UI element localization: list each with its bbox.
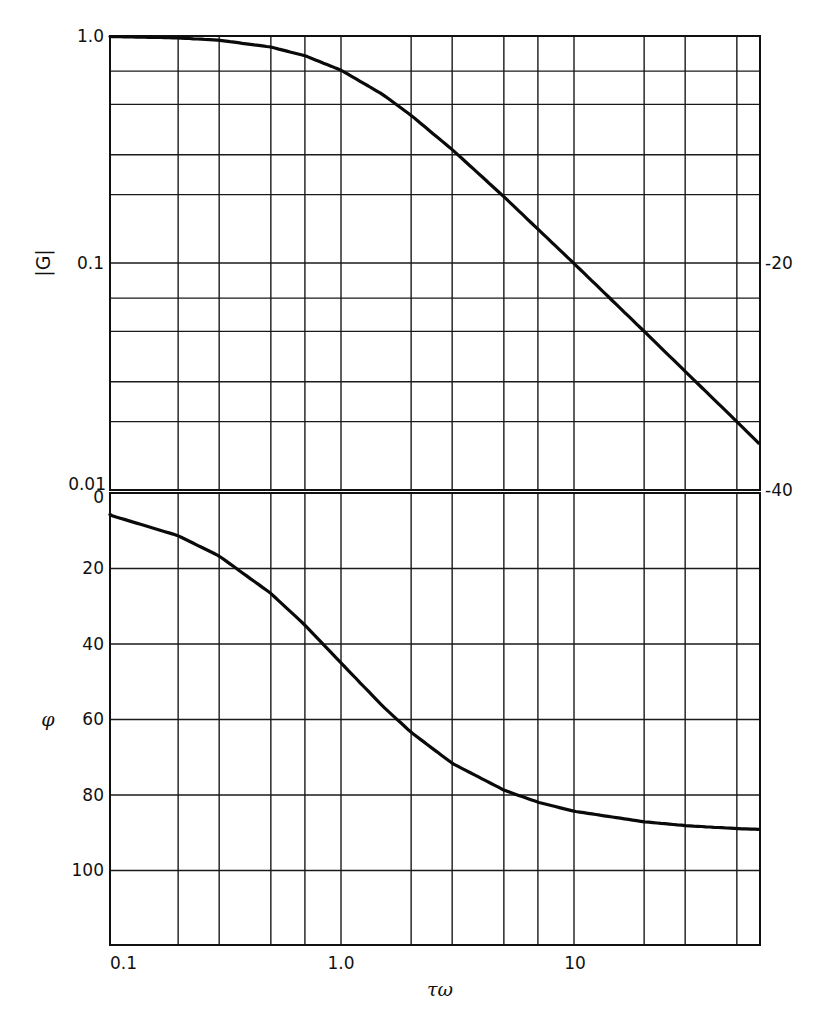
phase-ytick-20: 20: [82, 558, 104, 578]
phase-ytick-80: 80: [82, 785, 104, 805]
xtick-0-1: 0.1: [110, 953, 137, 973]
xtick-10: 10: [564, 953, 586, 973]
magnitude-grid: [110, 36, 760, 490]
mag-ylabel: |G|: [32, 249, 55, 277]
mag-right-tick-minus40: -40: [765, 480, 793, 500]
mag-ytick-0-1: 0.1: [77, 253, 104, 273]
xtick-1-0: 1.0: [327, 953, 354, 973]
xlabel: τω: [427, 978, 453, 1000]
phase-grid: [110, 493, 760, 945]
phase-curve: [110, 515, 759, 830]
phase-ytick-100: 100: [72, 860, 104, 880]
mag-right-tick-minus20: -20: [765, 253, 793, 273]
phase-ytick-40: 40: [82, 634, 104, 654]
phase-ytick-60: 60: [82, 709, 104, 729]
phase-ytick-0: 0: [93, 487, 104, 507]
phase-ylabel: φ: [41, 708, 55, 730]
mag-ytick-1: 1.0: [77, 26, 104, 46]
bode-plot-figure: 1.0 0.1 0.01 -20 -40 |G| 0 20 40 60 80 1…: [0, 0, 819, 1015]
